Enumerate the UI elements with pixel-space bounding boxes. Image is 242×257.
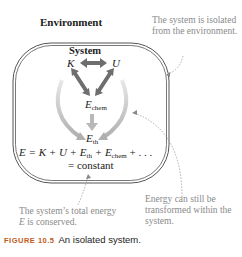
k-u-arrow: [80, 58, 107, 68]
environment-label: Environment: [40, 16, 102, 28]
kinetic-energy-label: K: [67, 57, 74, 69]
chemical-energy-label: Echem: [85, 98, 107, 112]
echem-eth-arrow: [86, 114, 98, 131]
equation-constant: = constant: [68, 159, 114, 171]
caption-text: An isolated system.: [59, 234, 141, 245]
potential-energy-label: U: [112, 57, 120, 69]
figure-number: FIGURE 10.5: [4, 236, 55, 245]
k-echem-arrow: [71, 68, 90, 96]
system-label: System: [69, 45, 101, 56]
thermal-energy-label: Eth: [86, 132, 98, 146]
note-transformed: Energy can still be transformed within t…: [145, 194, 241, 227]
k-eth-curved-arrow: [58, 80, 86, 140]
note-conserved: The system’s total energy E is conserved…: [19, 206, 119, 228]
note-isolated: The system is isolated from the environm…: [152, 15, 242, 37]
u-echem-arrow: [95, 68, 114, 96]
energy-equation: E = K + U + Eth + Echem + . . .: [19, 146, 152, 160]
figure-caption: FIGURE 10.5An isolated system.: [4, 234, 141, 245]
